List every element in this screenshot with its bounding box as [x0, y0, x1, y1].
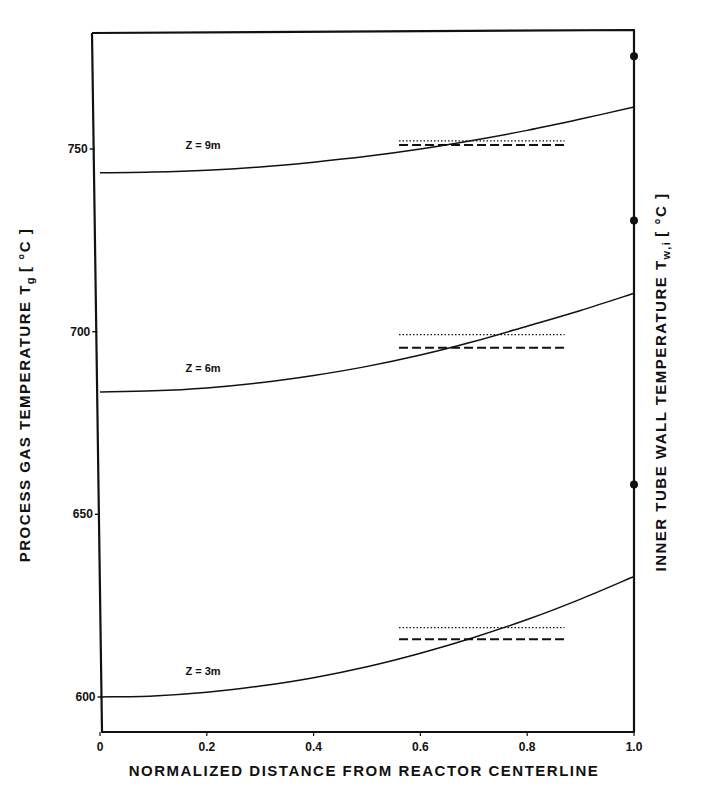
y-tick-label: 750	[68, 142, 88, 156]
curve-label: Z = 3m	[185, 665, 220, 677]
wall-temperature-dot	[630, 217, 638, 225]
chart-background	[0, 0, 706, 805]
chart: 600650700750 00.20.40.60.81.0 Z = 9mZ = …	[0, 0, 706, 805]
y2-axis-title-subscript: w,i	[660, 241, 672, 261]
x-tick-label: 0.6	[412, 740, 429, 754]
y-axis-title-unit: [ °C ]	[16, 228, 33, 272]
wall-temperature-dot	[630, 52, 638, 60]
y-axis-title-subscript: g	[24, 276, 36, 284]
curve-label: Z = 6m	[185, 362, 220, 374]
y-tick-label: 600	[75, 690, 95, 704]
wall-temperature-dot	[630, 480, 638, 488]
x-tick-label: 0.2	[198, 740, 215, 754]
curve-label: Z = 9m	[185, 139, 220, 151]
y-axis-title-main: PROCESS GAS TEMPERATURE T	[16, 284, 33, 562]
x-tick-label: 0.8	[519, 740, 536, 754]
x-axis-title: NORMALIZED DISTANCE FROM REACTOR CENTERL…	[129, 762, 600, 779]
x-tick-label: 0	[97, 740, 104, 754]
x-tick-label: 0.4	[305, 740, 322, 754]
y-tick-label: 650	[73, 507, 93, 521]
x-tick-label: 1.0	[626, 740, 643, 754]
y2-axis-title-main: INNER TUBE WALL TEMPERATURE T	[652, 259, 669, 571]
y2-axis-title-unit: [ °C ]	[652, 192, 669, 236]
y-tick-label: 700	[70, 325, 90, 339]
